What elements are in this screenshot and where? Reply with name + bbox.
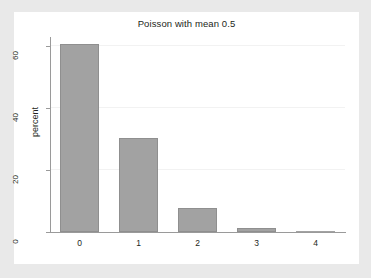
y-tick-label-40: 40 [11, 108, 20, 128]
x-tick-label-4: 4 [304, 238, 328, 248]
y-tick-label-60: 60 [11, 46, 20, 66]
y-tick-mark-0 [46, 232, 50, 233]
bar-1 [119, 138, 157, 232]
x-tick-label-0: 0 [68, 238, 92, 248]
bar-0 [60, 44, 98, 232]
x-axis-line [50, 232, 346, 233]
bars-layer [50, 37, 345, 232]
graph-region: Poisson with mean 0.5 percent 0 20 40 60 [14, 12, 359, 264]
bar-4 [296, 231, 334, 232]
y-tick-label-20: 20 [11, 170, 20, 190]
chart-figure: Poisson with mean 0.5 percent 0 20 40 60 [0, 0, 371, 278]
y-tick-label-0: 0 [11, 232, 20, 252]
y-axis-title: percent [30, 107, 40, 137]
x-tick-label-2: 2 [186, 238, 210, 248]
chart-title: Poisson with mean 0.5 [14, 18, 359, 29]
bar-3 [237, 228, 275, 232]
x-tick-label-3: 3 [245, 238, 269, 248]
x-tick-label-1: 1 [127, 238, 151, 248]
bar-2 [178, 208, 216, 232]
